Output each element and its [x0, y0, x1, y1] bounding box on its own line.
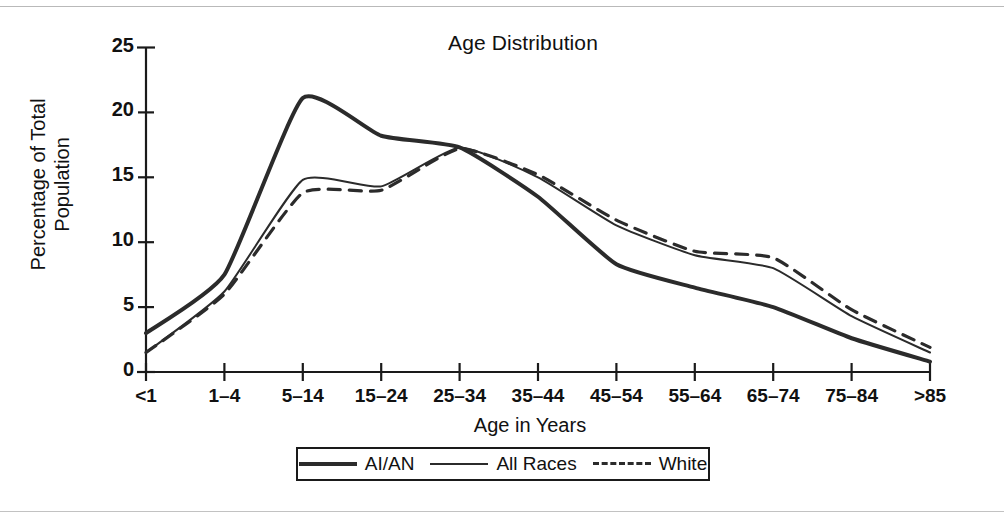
y-tick-label: 25	[88, 34, 134, 57]
x-tick-label: 15–24	[338, 385, 424, 407]
x-tick-label: 65–74	[730, 385, 816, 407]
x-tick-label: 25–34	[417, 385, 503, 407]
legend-item-label: AI/AN	[365, 453, 415, 475]
figure-container: Age Distribution Percentage of Total Pop…	[0, 0, 1004, 525]
legend-item-white[interactable]: White	[593, 453, 708, 475]
x-tick-label: 5–14	[260, 385, 346, 407]
y-tick-label: 5	[88, 293, 134, 316]
x-tick-label: 75–84	[809, 385, 895, 407]
x-tick-label: <1	[103, 385, 189, 407]
y-axis-label-line2: Population	[50, 74, 74, 294]
y-tick-label: 0	[88, 358, 134, 381]
y-tick-label: 10	[88, 228, 134, 251]
x-tick-label: 35–44	[495, 385, 581, 407]
legend-line-swatch-icon	[299, 458, 357, 470]
legend-item-all-races[interactable]: All Races	[430, 453, 576, 475]
chart-legend: AI/ANAll RacesWhite	[296, 447, 710, 481]
legend-line-swatch-icon	[593, 458, 651, 470]
x-tick-label: 55–64	[652, 385, 738, 407]
age-distribution-chart: Age Distribution Percentage of Total Pop…	[0, 0, 1004, 525]
y-axis-label: Percentage of Total Population	[26, 74, 75, 294]
series-group	[146, 96, 930, 361]
x-tick-label: 1–4	[181, 385, 267, 407]
y-axis-label-line1: Percentage of Total	[26, 74, 50, 294]
legend-item-label: All Races	[496, 453, 576, 475]
legend-item-label: White	[659, 453, 708, 475]
legend-line-swatch-icon	[430, 458, 488, 470]
series-line-ai-an	[146, 96, 930, 361]
x-tick-label: >85	[887, 385, 973, 407]
axes-group	[137, 48, 930, 382]
y-tick-label: 15	[88, 163, 134, 186]
chart-title: Age Distribution	[388, 31, 658, 55]
x-axis-label: Age in Years	[390, 414, 670, 437]
y-tick-label: 20	[88, 98, 134, 121]
x-tick-label: 45–54	[573, 385, 659, 407]
legend-item-ai-an[interactable]: AI/AN	[299, 453, 415, 475]
